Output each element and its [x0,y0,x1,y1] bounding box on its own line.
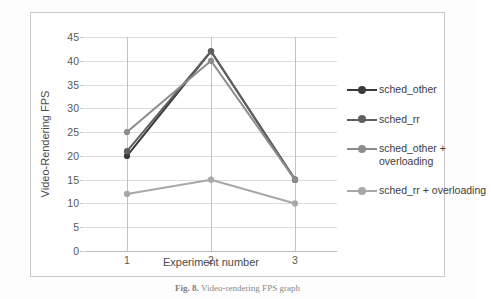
y-axis-tick-label: 20 [67,151,79,162]
series-line [127,51,295,179]
chart-frame: Video-Rendering FPS 051015202530354045 1… [30,12,445,277]
x-axis-label: Experiment number [85,256,337,268]
series-3 [124,177,298,207]
y-axis-tick-mark [80,37,84,38]
legend-item-2[interactable]: sched_other + overloading [347,142,491,167]
data-point [208,177,214,183]
legend-label: sched_rr + overloading [379,184,486,197]
legend-dot [358,86,366,94]
legend-item-0[interactable]: sched_other [347,83,491,96]
figure-caption-label: Fig. 8. [175,283,199,293]
y-axis-tick-mark [80,108,84,109]
y-axis-tick-mark [80,251,84,252]
y-axis-tick-mark [80,156,84,157]
plot-area: 051015202530354045 123 [85,37,337,251]
y-axis-tick-label: 40 [67,56,79,67]
legend-dot [358,145,366,153]
chart-legend: sched_othersched_rrsched_other + overloa… [347,83,491,214]
y-axis-tick-mark [80,180,84,181]
y-axis-tick-mark [80,227,84,228]
y-axis-tick-label: 35 [67,79,79,90]
legend-label: sched_other [379,83,437,96]
legend-marker-icon [347,114,377,125]
y-axis-label-text: Video-Rendering FPS [39,91,51,198]
legend-dot [358,187,366,195]
legend-label: sched_rr [379,113,420,126]
y-axis-tick-label: 30 [67,103,79,114]
data-point [124,148,130,154]
legend-item-3[interactable]: sched_rr + overloading [347,184,491,197]
y-axis-tick-label: 0 [73,246,79,257]
y-axis-tick-label: 10 [67,198,79,209]
y-axis-tick-label: 15 [67,174,79,185]
legend-marker-icon [347,185,377,196]
series-0 [124,48,298,183]
y-axis-tick-label: 45 [67,32,79,43]
y-axis-tick-label: 25 [67,127,79,138]
y-axis-tick-mark [80,61,84,62]
x-axis-line [85,251,337,252]
y-axis-tick-mark [80,132,84,133]
series-canvas [85,37,337,251]
series-2 [124,58,298,183]
figure-caption: Fig. 8. Video-rendering FPS graph [0,283,475,293]
legend-marker-icon [347,84,377,95]
y-axis-label: Video-Rendering FPS [37,37,53,251]
legend-marker-icon [347,143,377,154]
data-point [124,191,130,197]
y-axis-tick-mark [80,85,84,86]
series-line [127,51,295,179]
series-line [127,180,295,204]
data-point [124,129,130,135]
data-point [208,58,214,64]
series-1 [124,48,298,183]
data-point [292,177,298,183]
data-point [292,200,298,206]
legend-label: sched_other + overloading [379,142,491,167]
y-axis-tick-label: 5 [73,222,79,233]
legend-dot [358,115,366,123]
figure-caption-text: Video-rendering FPS graph [201,283,300,293]
y-axis-tick-mark [80,203,84,204]
legend-item-1[interactable]: sched_rr [347,113,491,126]
data-point [208,48,214,54]
